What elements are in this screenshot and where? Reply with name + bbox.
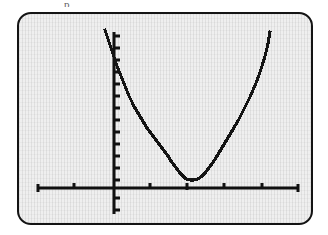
parabola-plot bbox=[19, 14, 310, 222]
scanned-page-background: p bbox=[0, 0, 328, 235]
scan-artifact-text: p bbox=[64, 0, 74, 7]
x-axis-group bbox=[37, 183, 299, 192]
graphing-calculator-screen bbox=[17, 12, 313, 225]
parabola-curve bbox=[105, 30, 270, 180]
